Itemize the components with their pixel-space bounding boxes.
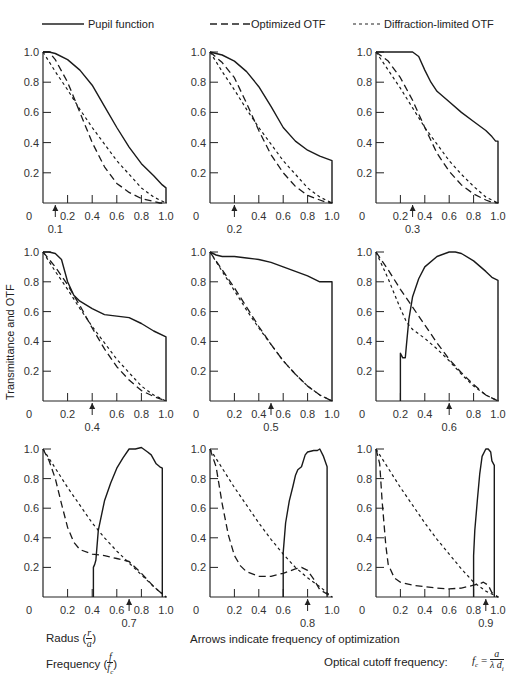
frequency-close: ) [113, 658, 117, 670]
x-tick-label: 0.8 [300, 408, 315, 420]
panel-3: 0.20.40.60.81.000.20.40.60.81.00.3 [357, 46, 506, 235]
arrow-head-icon [483, 599, 489, 605]
y-tick-label: 0.4 [24, 532, 39, 544]
y-tick-label: 0.6 [191, 306, 206, 318]
x-tick-label: 0.4 [85, 210, 100, 222]
y-tick-label: 1.0 [24, 46, 39, 58]
x-tick-label: 1.0 [158, 408, 173, 420]
x-tick-label: 0.6 [276, 210, 291, 222]
x-tick-label: 0.4 [417, 604, 432, 616]
x-tick-label: 0.2 [227, 604, 242, 616]
cutoff-formula: fc = aλ di [472, 649, 504, 674]
pupil-function-curve [210, 52, 332, 203]
y-tick-label: 0.8 [24, 276, 39, 288]
optimization-frequency-label: 0.2 [227, 223, 242, 235]
panel-2: 0.20.40.60.81.000.40.60.81.00.2 [191, 46, 340, 235]
y-tick-label: 0.4 [24, 335, 39, 347]
formula-denominator: λ di [490, 660, 504, 674]
y-tick-label: 0.4 [191, 532, 206, 544]
y-tick-label: 1.0 [24, 246, 39, 258]
x-tick-label: 0.6 [109, 408, 124, 420]
panel-9: 0.20.40.60.81.000.20.40.60.81.00.9 [357, 443, 506, 629]
x-tick-label: 0 [26, 408, 32, 420]
diffraction-limited-otf-curve [43, 449, 166, 597]
y-tick-label: 0.2 [24, 365, 39, 377]
y-tick-label: 0.2 [191, 365, 206, 377]
diffraction-limited-otf-curve [376, 52, 498, 203]
y-tick-label: 1.0 [24, 443, 39, 455]
x-tick-label: 0.6 [276, 408, 291, 420]
pupil-function-curve [43, 252, 166, 401]
y-tick-label: 0.8 [357, 76, 372, 88]
y-tick-label: 0.6 [191, 106, 206, 118]
x-tick-label: 1.0 [490, 408, 505, 420]
arrow-head-icon [231, 205, 237, 211]
y-tick-label: 0.4 [357, 532, 372, 544]
arrow-head-icon [268, 403, 274, 409]
optimized-otf-curve [43, 52, 166, 203]
radius-close: ) [92, 632, 96, 644]
x-tick-label: 0 [359, 408, 365, 420]
optimization-frequency-label: 0.6 [442, 421, 457, 433]
formula-den-text: λ d [490, 659, 502, 670]
x-tick-label: 0.6 [442, 210, 457, 222]
x-tick-label: 0.2 [60, 604, 75, 616]
x-tick-label: 0.4 [417, 210, 432, 222]
y-tick-label: 1.0 [191, 46, 206, 58]
x-tick-label: 0 [193, 408, 199, 420]
y-tick-label: 0.6 [357, 502, 372, 514]
panel-6: 0.20.40.60.81.000.20.40.81.00.6 [357, 246, 506, 433]
arrow-head-icon [446, 403, 452, 409]
y-tick-label: 0.2 [24, 561, 39, 573]
panel-1: 0.20.40.60.81.000.20.40.60.81.00.1 [24, 46, 174, 235]
pupil-function-curve [376, 52, 498, 203]
panel-5: 0.20.40.60.81.000.20.40.60.81.00.5 [191, 246, 340, 433]
x-tick-label: 0.4 [85, 604, 100, 616]
x-tick-label: 0.8 [466, 210, 481, 222]
optimized-otf-curve [43, 449, 166, 597]
x-tick-label: 0.2 [60, 210, 75, 222]
y-tick-label: 0.6 [24, 306, 39, 318]
formula-den-sub: i [502, 665, 504, 673]
y-tick-label: 1.0 [357, 443, 372, 455]
optimization-frequency-label: 0.1 [48, 223, 63, 235]
x-tick-label: 0 [26, 210, 32, 222]
y-tick-label: 0.2 [357, 167, 372, 179]
y-tick-label: 1.0 [357, 246, 372, 258]
diffraction-limited-otf-curve [210, 52, 332, 203]
y-tick-label: 0.6 [24, 502, 39, 514]
pupil-function-curve [474, 449, 495, 597]
pupil-function-curve [283, 449, 327, 597]
arrow-head-icon [89, 403, 95, 409]
radius-label: Radus ( [46, 632, 86, 644]
y-tick-label: 0.6 [357, 306, 372, 318]
x-tick-label: 0 [359, 604, 365, 616]
x-tick-label: 0 [26, 604, 32, 616]
optimization-frequency-label: 0.5 [263, 421, 278, 433]
x-tick-label: 1.0 [324, 408, 339, 420]
y-tick-label: 0.4 [24, 137, 39, 149]
x-tick-label: 0.6 [109, 604, 124, 616]
y-tick-label: 1.0 [191, 246, 206, 258]
x-tick-label: 0.8 [466, 604, 481, 616]
x-tick-label: 0.6 [442, 604, 457, 616]
y-tick-label: 1.0 [191, 443, 206, 455]
x-tick-label: 0.4 [251, 604, 266, 616]
optimized-otf-curve [210, 449, 332, 597]
y-tick-label: 0.6 [191, 502, 206, 514]
x-tick-label: 0.8 [134, 408, 149, 420]
optimized-otf-curve [210, 52, 332, 203]
y-tick-label: 0.2 [357, 365, 372, 377]
optimization-frequency-label: 0.8 [300, 617, 315, 629]
y-tick-label: 0.2 [191, 561, 206, 573]
optimized-otf-curve [376, 52, 498, 203]
arrows-caption: Arrows indicate frequency of optimizatio… [190, 633, 400, 645]
arrow-head-icon [52, 205, 58, 211]
radius-caption: Radus (ra) [46, 628, 96, 649]
diffraction-limited-otf-curve [210, 252, 332, 401]
pupil-function-curve [43, 52, 166, 203]
y-tick-label: 0.4 [191, 137, 206, 149]
x-tick-label: 0.8 [134, 210, 149, 222]
legend-pupil-label: Pupil function [88, 18, 154, 30]
y-tick-label: 0.8 [191, 473, 206, 485]
